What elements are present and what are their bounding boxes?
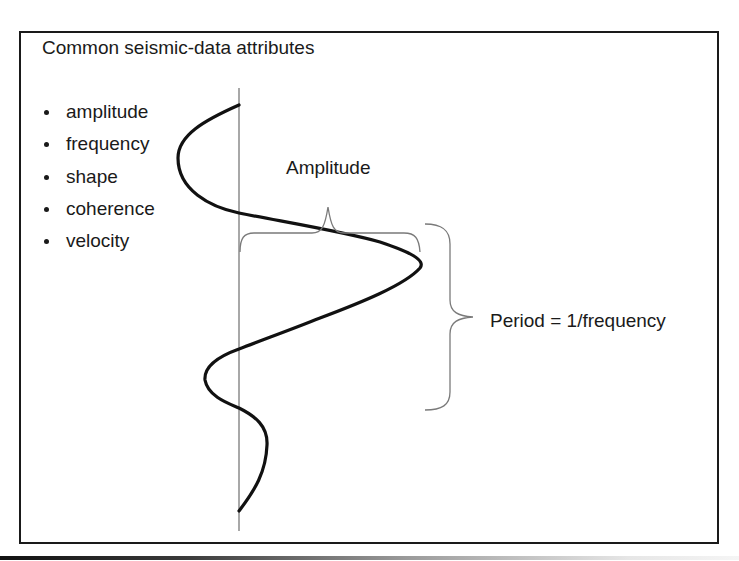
period-label: Period = 1/frequency (490, 310, 666, 332)
bottom-shadow-bar (0, 556, 739, 560)
amplitude-label: Amplitude (286, 157, 371, 179)
seismic-wavelet-diagram (0, 0, 739, 561)
period-brace (425, 224, 473, 410)
